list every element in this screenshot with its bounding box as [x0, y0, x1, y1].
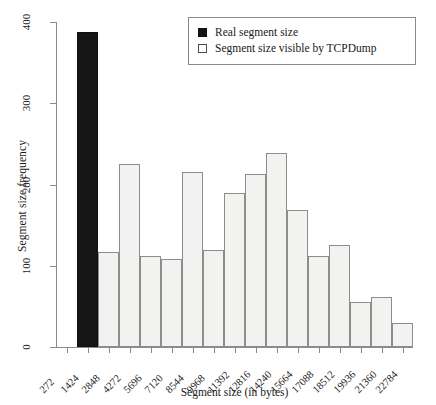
y-axis-tick-label: 300 [6, 96, 46, 110]
y-axis-tick-label: 100 [6, 259, 46, 273]
bar [182, 172, 203, 347]
bar [350, 302, 371, 348]
legend-swatch-dark-icon [198, 28, 207, 37]
y-axis-tick-label: 0 [6, 340, 46, 354]
bar [119, 164, 140, 347]
bar [140, 256, 161, 347]
bar [245, 174, 266, 347]
plot-area [56, 22, 413, 347]
legend-label: Segment size visible by TCPDump [215, 42, 376, 55]
y-axis-tick-mark [50, 347, 56, 348]
y-axis-tick-label: 400 [6, 15, 46, 29]
histogram-figure: Segment size frequency 0100200300400 272… [0, 0, 436, 405]
legend-item-real-segment-size: Real segment size [198, 25, 406, 40]
legend-item-tcpdump-segment-size: Segment size visible by TCPDump [198, 41, 406, 56]
bar [224, 193, 245, 347]
bar [266, 153, 287, 347]
bar [371, 297, 392, 347]
bar [77, 32, 98, 347]
legend-label: Real segment size [215, 26, 298, 39]
y-axis-title: Segment size frequency [11, 26, 33, 366]
bar [329, 245, 350, 347]
bar [392, 323, 413, 347]
legend-swatch-light-icon [198, 44, 207, 53]
x-axis-tick-mark [67, 348, 68, 353]
bar [287, 210, 308, 347]
bar [98, 252, 119, 347]
chart-legend: Real segment size Segment size visible b… [188, 17, 416, 65]
bar [308, 256, 329, 347]
bar [203, 250, 224, 348]
x-axis-title: Segment size (in bytes) [56, 386, 413, 398]
bar [161, 259, 182, 347]
y-axis-tick-label: 200 [6, 178, 46, 192]
